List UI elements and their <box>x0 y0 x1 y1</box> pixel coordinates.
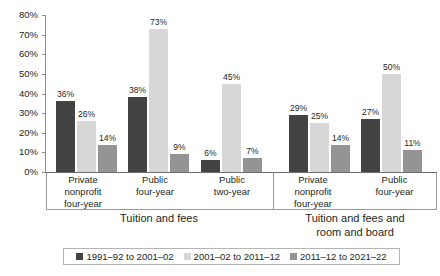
bar-group: 27%50%11% <box>361 15 427 172</box>
bar <box>243 158 262 172</box>
legend-item[interactable]: 2001–02 to 2011–12 <box>184 252 280 262</box>
legend-label: 2001–02 to 2011–12 <box>194 252 280 262</box>
y-axis-tick-label: 60% <box>19 49 38 59</box>
bar-value-label: 25% <box>307 112 332 121</box>
legend-label: 1991–92 to 2001–02 <box>86 252 173 262</box>
category-label: Publicfour-year <box>352 173 437 210</box>
category-label-line: nonprofit <box>295 186 332 198</box>
y-axis-tick-label: 80% <box>19 10 38 20</box>
y-axis: 80%70%60%50%40%30%20%10%0% <box>0 0 42 180</box>
category-label-line: four-year <box>64 198 102 210</box>
bar-value-label: 26% <box>74 110 99 119</box>
category-label-line: two-year <box>214 186 250 198</box>
section-title-tuition-and-fees: Tuition and fees <box>46 212 272 226</box>
bar <box>222 84 241 172</box>
legend-label: 2011–12 to 2021–22 <box>300 252 386 262</box>
legend-swatch-icon <box>290 253 297 260</box>
category-label-table: Privatenonprofitfour-yearPublicfour-year… <box>46 173 437 210</box>
y-axis-tick-label: 70% <box>19 30 38 40</box>
bar <box>77 121 96 172</box>
bar <box>170 154 189 172</box>
bar <box>289 115 308 172</box>
bar <box>382 74 401 172</box>
bar <box>128 97 147 172</box>
category-label-line: nonprofit <box>65 186 102 198</box>
category-label-line: Private <box>68 174 98 186</box>
category-label: Privatenonprofitfour-year <box>274 173 352 210</box>
bar-group: 36%26%14% <box>56 15 122 172</box>
y-axis-tick-label: 50% <box>19 69 38 79</box>
bar-value-label: 6% <box>198 149 223 158</box>
bar-value-label: 14% <box>95 134 120 143</box>
bar-value-label: 11% <box>400 139 425 148</box>
category-label-line: Private <box>298 174 328 186</box>
bar-value-label: 7% <box>240 147 265 156</box>
bar-value-label: 73% <box>146 18 171 27</box>
bar <box>403 150 422 172</box>
bar-group: 38%73%9% <box>128 15 194 172</box>
section-title-line: Tuition and fees and <box>273 212 437 226</box>
bar <box>201 160 220 172</box>
plot-area: 36%26%14%38%73%9%6%45%7%29%25%14%27%50%1… <box>46 15 437 172</box>
bar <box>149 29 168 172</box>
category-label: Privatenonprofitfour-year <box>47 173 119 210</box>
category-label-line: Public <box>382 174 408 186</box>
category-label-line: Public <box>142 174 168 186</box>
legend-item[interactable]: 2011–12 to 2021–22 <box>290 252 386 262</box>
bar <box>56 101 75 172</box>
bar-value-label: 36% <box>53 90 78 99</box>
bar-value-label: 27% <box>358 108 383 117</box>
category-label-line: Public <box>219 174 245 186</box>
bar-group: 6%45%7% <box>201 15 267 172</box>
chart-legend: 1991–92 to 2001–022001–02 to 2011–122011… <box>63 248 400 265</box>
category-label: Publictwo-year <box>191 173 273 210</box>
section-divider <box>273 173 274 210</box>
bar <box>361 119 380 172</box>
section-title-line: room and board <box>273 226 437 240</box>
bar-value-label: 38% <box>125 86 150 95</box>
bar-value-label: 14% <box>328 134 353 143</box>
legend-swatch-icon <box>184 253 191 260</box>
category-label: Publicfour-year <box>119 173 191 210</box>
y-axis-tick-label: 30% <box>19 108 38 118</box>
legend-swatch-icon <box>76 253 83 260</box>
category-label-line: four-year <box>294 198 332 210</box>
bar <box>98 145 117 172</box>
y-axis-tick-label: 20% <box>19 128 38 138</box>
bar-value-label: 50% <box>379 63 404 72</box>
y-axis-tick-label: 10% <box>19 147 38 157</box>
category-label-line: four-year <box>136 186 174 198</box>
y-axis-tick-label: 40% <box>19 89 38 99</box>
bar-chart: 80%70%60%50%40%30%20%10%0% 36%26%14%38%7… <box>0 0 440 276</box>
legend-item[interactable]: 1991–92 to 2001–02 <box>76 252 173 262</box>
bar-group: 29%25%14% <box>289 15 355 172</box>
bar-value-label: 45% <box>219 73 244 82</box>
y-axis-tick-label: 0% <box>24 167 38 177</box>
category-label-line: four-year <box>375 186 413 198</box>
bar-value-label: 9% <box>167 143 192 152</box>
bar <box>310 123 329 172</box>
bar <box>331 145 350 172</box>
section-title-tuition-fees-room-board: Tuition and fees androom and board <box>273 212 437 239</box>
